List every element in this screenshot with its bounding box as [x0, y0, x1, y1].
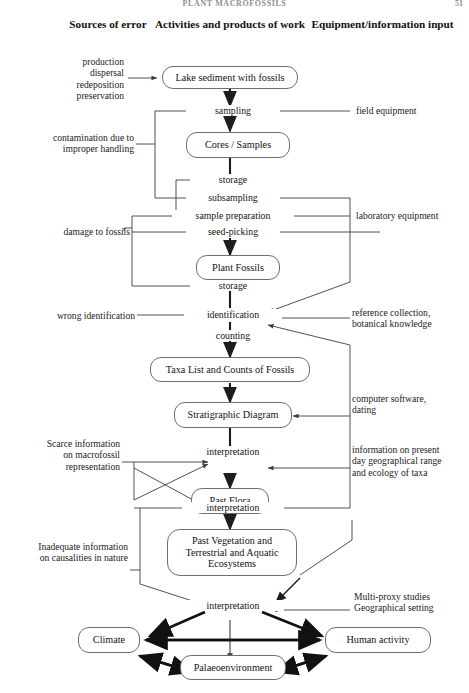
input-line-software-2: dating [352, 404, 468, 415]
input-line-reference-1: reference collection, [352, 307, 468, 318]
input-line-multiproxy-2: Geographical setting [354, 602, 469, 613]
node-lake-sediment[interactable]: Lake sediment with fossils [162, 66, 298, 89]
step-interpretation-2[interactable]: interpretation [182, 502, 284, 513]
node-human-activity[interactable]: Human activity [325, 627, 431, 653]
step-sampling[interactable]: sampling [186, 105, 280, 116]
step-identification[interactable]: identification [184, 309, 282, 320]
error-line-inadequate-1: Inadequate information [4, 541, 128, 552]
node-plant-fossils[interactable]: Plant Fossils [196, 255, 280, 280]
column-heading-center: Activities and products of work [150, 18, 310, 32]
error-label-scarce-information: Scarce information on macrofossil repres… [10, 438, 120, 472]
error-line-scarce-1: Scarce information [10, 438, 120, 449]
node-cores-samples[interactable]: Cores / Samples [186, 132, 290, 158]
input-line-present-2: day geographical range [352, 455, 469, 466]
error-label-wrong-identification: wrong identification [14, 310, 135, 321]
step-counting[interactable]: counting [192, 330, 274, 341]
step-subsampling[interactable]: subsampling [186, 192, 280, 203]
input-line-multiproxy-1: Multi-proxy studies [354, 591, 469, 602]
step-storage-2[interactable]: storage [190, 280, 276, 291]
error-line-production: production [20, 56, 124, 67]
error-label-damage: damage to fossils [20, 226, 130, 237]
error-label-contamination: contamination due to improper handling [10, 132, 134, 155]
input-label-reference-collection: reference collection, botanical knowledg… [352, 307, 468, 330]
input-label-computer-software: computer software, dating [352, 393, 468, 416]
step-storage-1[interactable]: storage [190, 174, 276, 185]
input-line-present-3: and ecology of taxa [352, 467, 469, 478]
column-heading-right: Equipment/information input [300, 18, 465, 32]
input-label-multi-proxy: Multi-proxy studies Geographical setting [354, 591, 469, 614]
node-climate[interactable]: Climate [78, 627, 140, 653]
input-line-present-1: information on present [352, 444, 469, 455]
error-line-contamination-1: contamination due to [10, 132, 134, 143]
node-stratigraphic-diagram[interactable]: Stratigraphic Diagram [174, 402, 292, 428]
step-interpretation-1[interactable]: interpretation [182, 446, 284, 457]
error-label-inadequate-information: Inadequate information on causalities in… [4, 541, 128, 564]
input-label-laboratory-equipment: laboratory equipment [356, 210, 468, 221]
error-line-dispersal: dispersal [20, 67, 124, 78]
error-line-contamination-2: improper handling [10, 143, 134, 154]
step-interpretation-3[interactable]: interpretation [182, 600, 284, 611]
error-line-scarce-2: on macrofossil [10, 449, 120, 460]
diagram-canvas: PLANT MACROFOSSILS 51 [0, 0, 469, 693]
node-taxa-list[interactable]: Taxa List and Counts of Fossils [150, 357, 310, 382]
error-line-scarce-3: representation [10, 461, 120, 472]
step-seed-picking[interactable]: seed-picking [186, 226, 280, 237]
error-line-inadequate-2: on causalities in nature [4, 552, 128, 563]
error-line-redeposition: redeposition [20, 79, 124, 90]
input-line-reference-2: botanical knowledge [352, 318, 468, 329]
input-label-field-equipment: field equipment [356, 105, 468, 116]
input-line-software-1: computer software, [352, 393, 468, 404]
error-line-preservation: preservation [20, 90, 124, 101]
input-label-present-day-information: information on present day geographical … [352, 444, 469, 478]
step-sample-preparation[interactable]: sample preparation [172, 210, 294, 221]
node-palaeoenvironment[interactable]: Palaeoenvironment [180, 655, 286, 680]
flow-connectors [0, 0, 469, 693]
error-label-taphonomy: production dispersal redeposition preser… [20, 56, 124, 102]
node-past-vegetation[interactable]: Past Vegetation and Terrestrial and Aqua… [167, 529, 297, 576]
